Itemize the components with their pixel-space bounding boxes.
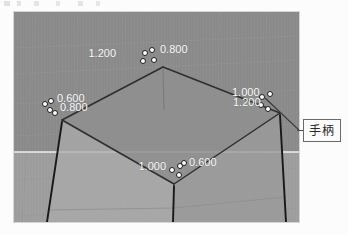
control-point-handle[interactable] (170, 168, 175, 173)
3d-modeling-viewport[interactable]: 1.200 0.800 0.600 0.800 1.000 1.200 1.00… (14, 12, 299, 222)
dimension-label: 1.200 (88, 47, 116, 59)
dimension-label: 1.000 (138, 160, 166, 172)
control-point-handle[interactable] (48, 108, 53, 113)
control-point-handle[interactable] (49, 99, 54, 104)
callout-label-box[interactable]: 手柄 (303, 119, 341, 142)
control-point-handle[interactable] (268, 92, 273, 97)
control-point-handle[interactable] (43, 102, 48, 107)
scanned-page-background: 1.200 0.800 0.600 0.800 1.000 1.200 1.00… (0, 0, 348, 234)
dimension-label: 1.200 (233, 96, 261, 108)
control-point-handle[interactable] (150, 48, 155, 53)
control-point-handle[interactable] (177, 173, 182, 178)
dimension-label: 0.600 (189, 156, 217, 168)
callout-label-text: 手柄 (309, 125, 335, 137)
control-point-handle[interactable] (266, 107, 271, 112)
control-point-handle[interactable] (182, 161, 187, 166)
scan-artifact-speckle (4, 1, 124, 6)
control-point-handle[interactable] (53, 111, 58, 116)
dimension-label: 0.800 (160, 43, 188, 55)
control-point-handle[interactable] (152, 58, 157, 63)
control-point-handle[interactable] (141, 59, 146, 64)
control-point-handle[interactable] (143, 51, 148, 56)
dimension-label: 0.800 (60, 101, 88, 113)
